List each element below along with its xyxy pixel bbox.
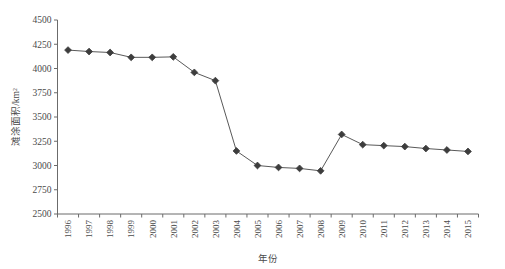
- x-tick-label: 2005: [253, 220, 263, 239]
- x-tick-label: 2004: [232, 220, 242, 239]
- x-axis-title: 年份: [258, 253, 278, 264]
- x-tick-label: 2007: [295, 220, 305, 239]
- data-point-marker: 2006: 2980: [275, 164, 282, 171]
- data-point-marker: 2007: 2970: [296, 165, 303, 172]
- data-point-marker: 2002: 3960: [191, 69, 198, 76]
- y-tick-label: 3000: [33, 161, 52, 171]
- y-axis-ticks: 250027503000325035003750400042504500: [33, 15, 58, 219]
- x-tick-label: 1996: [63, 220, 73, 239]
- line-chart: 2500275030003250350037504000425045001996…: [0, 0, 505, 269]
- y-tick-label: 2500: [33, 209, 52, 219]
- x-tick-label: 2012: [400, 220, 410, 238]
- y-tick-label: 3750: [33, 88, 52, 98]
- data-line: [68, 50, 468, 171]
- y-tick-label: 4500: [33, 15, 52, 25]
- y-tick-label: 3250: [33, 137, 52, 147]
- y-tick-label: 4000: [33, 64, 52, 74]
- data-point-marker: 2001: 4120: [170, 53, 177, 60]
- x-tick-label: 1998: [105, 220, 115, 239]
- data-point-marker: 2004: 3150: [233, 148, 240, 155]
- data-point-marker: 1998: 4165: [107, 49, 114, 56]
- x-tick-label: 2011: [379, 220, 389, 238]
- x-tick-label: 2009: [337, 220, 347, 239]
- data-point-marker: 1996: 4190: [65, 47, 72, 54]
- x-tick-label: 2015: [463, 220, 473, 239]
- x-axis-ticks: 1996199719981999200020012002200320042005…: [58, 214, 479, 238]
- x-tick-label: 2001: [169, 220, 179, 238]
- x-tick-label: 2003: [211, 220, 221, 239]
- x-tick-label: 2013: [421, 220, 431, 239]
- x-tick-label: 1999: [126, 220, 136, 239]
- x-tick-label: 2002: [190, 220, 200, 238]
- data-point-marker: 2003: 3875: [212, 77, 219, 84]
- x-tick-label: 2008: [316, 220, 326, 239]
- x-tick-label: 1997: [84, 220, 94, 239]
- data-point-marker: 2014: 3160: [444, 147, 451, 154]
- data-point-marker: 2011: 3205: [380, 142, 387, 149]
- x-tick-label: 2014: [442, 220, 452, 239]
- data-point-marker: 2010: 3215: [359, 141, 366, 148]
- data-point-marker: 2000: 4115: [149, 54, 156, 61]
- x-tick-label: 2010: [358, 220, 368, 239]
- y-axis-title: 滩涂面积/km²: [10, 88, 21, 146]
- data-point-marker: 1997: 4175: [86, 48, 93, 55]
- chart-container: 2500275030003250350037504000425045001996…: [0, 0, 505, 269]
- data-point-marker: 2012: 3195: [401, 143, 408, 150]
- x-tick-label: 2000: [148, 220, 158, 239]
- data-point-marker: 2013: 3175: [422, 145, 429, 152]
- y-tick-label: 3500: [33, 112, 52, 122]
- data-point-marker: 2015: 3145: [465, 148, 472, 155]
- data-point-marker: 2005: 3000: [254, 162, 261, 169]
- data-point-marker: 2009: 3320: [338, 131, 345, 138]
- data-point-marker: 1999: 4115: [128, 54, 135, 61]
- data-point-marker: 2008: 2945: [317, 167, 324, 174]
- x-tick-label: 2006: [274, 220, 284, 239]
- y-tick-label: 2750: [33, 185, 52, 195]
- data-markers: 1996: 41901997: 41751998: 41651999: 4115…: [65, 47, 472, 175]
- y-tick-label: 4250: [33, 40, 52, 50]
